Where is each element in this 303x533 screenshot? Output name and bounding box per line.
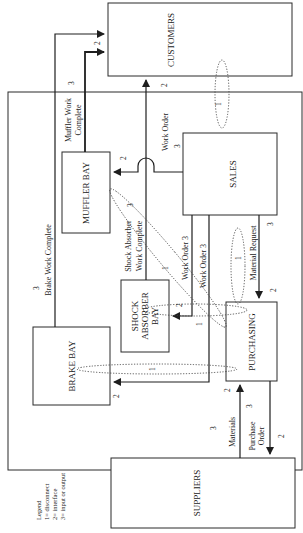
brake-bay-label: BRAKE BAY [67,340,77,391]
brake-work-complete-type: 3 [32,286,41,290]
muffler-work-complete-label-2: Complete [74,104,83,136]
disconnect-sales-purchasing [231,228,245,304]
disconnect-customers-sales-num: 1 [214,102,223,106]
customers-in-type: 2 [93,41,102,45]
purchase-order-label-2: Order [257,426,266,445]
brake-in-type: 2 [112,394,121,398]
purchasing-in-type: 2 [269,288,278,292]
disconnect-muffler-purchasing-num: 1 [161,266,170,270]
muffler-work-complete-type: 3 [67,81,76,85]
shock-work-complete-label-1: Shock Absorber [124,220,133,272]
shock-work-complete-type: 3 [126,203,135,207]
purchasing-label: PURCHASING [247,313,257,371]
work-order-sales-type: 3 [173,144,182,148]
shock-work-complete-label-2: Work Complete [135,220,144,271]
shock-label-3: BAY [150,306,160,325]
disconnect-brake-purchasing-num: 1 [148,367,157,371]
material-request-label: Material Request [249,225,258,281]
customers-label: CUSTOMERS [166,13,176,67]
shock-in-type: 2 [175,303,184,307]
material-request-type: 3 [266,222,275,226]
shock-label-1: SHOCK [130,300,140,331]
purchase-order-label-1: Purchase [248,421,257,450]
disconnect-sales-purchasing-num: 1 [234,256,243,260]
brake-work-complete-label: Brake Work Complete [44,224,53,296]
legend-item-interface: 2= interface [51,489,58,520]
legend-title: Legend [35,500,42,520]
purchasing-materials-in-type: 2 [223,388,232,392]
muffler-in-type: 2 [119,156,128,160]
muffler-bay-label: MUFFLER BAY [81,162,91,224]
suppliers-label: SUPPLIERS [192,470,202,517]
work-order-sales-label: Work Order [161,113,170,152]
shock-label-2: ABSORBER [140,292,150,340]
legend-item-disconnect: 1= disconnect [43,483,50,520]
purchase-order-type: 3 [245,404,254,408]
suppliers-in-type: 2 [277,434,286,438]
muffler-work-complete-arrow [85,52,104,152]
work-order-shock-label: Work Order 3 [181,236,190,280]
legend: Legend 1= disconnect 2= interface 3= inp… [35,473,66,520]
muffler-work-complete-label-1: Muffler Work [64,98,73,142]
suppliers-box [111,458,295,528]
process-relationship-diagram: CUSTOMERS MUFFLER BAY SALES SHOCK ABSORB… [0,0,303,533]
work-order-customers-type: 2 [160,83,169,87]
legend-item-input-output: 3= input or output [59,473,66,520]
disconnect-shock-purchasing-num: 1 [195,322,204,326]
sales-label: SALES [228,160,238,188]
customers-box [108,3,292,76]
work-order-brake-label: Work Order 3 [199,244,208,288]
materials-label: Materials [228,417,237,447]
materials-type: 3 [209,426,218,430]
